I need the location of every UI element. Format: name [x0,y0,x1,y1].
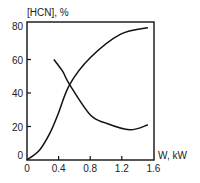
x-tick-label: 1.6 [146,163,160,174]
x-tick-label: 0 [24,163,30,174]
falling-curve [54,60,148,130]
x-axis-label: W, kW [158,150,187,161]
x-axis-ticks: 00.40.81.21.6 [24,156,161,174]
y-axis-ticks: 020406080 [12,21,31,161]
x-tick-label: 1.2 [115,163,129,174]
y-axis-label: [HCN], % [27,7,69,18]
rising-curve [27,28,148,160]
y-tick-label: 80 [12,21,24,32]
data-series [27,28,148,160]
chart: 020406080 00.40.81.21.6 [HCN], % W, kW [0,0,200,183]
x-tick-label: 0.4 [52,163,66,174]
y-tick-label: 0 [17,150,23,161]
y-tick-label: 20 [12,122,24,133]
x-tick-label: 0.8 [83,163,97,174]
y-tick-label: 60 [12,55,24,66]
y-tick-label: 40 [12,88,24,99]
